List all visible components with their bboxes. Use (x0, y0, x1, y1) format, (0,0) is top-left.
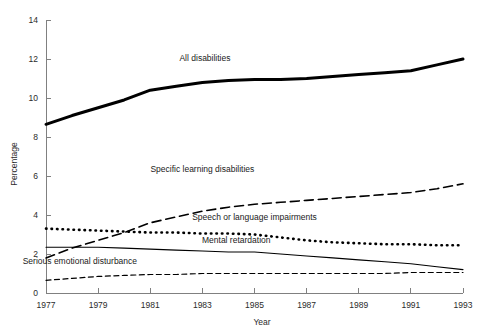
x-tick-label-1981: 1981 (141, 300, 160, 310)
x-tick-label-1993: 1993 (454, 300, 473, 310)
series-line-4 (46, 273, 463, 281)
series-label-1: Specific learning disabilities (150, 164, 254, 174)
series-line-0 (46, 59, 463, 124)
y-tick-label-6: 6 (33, 171, 38, 181)
line-chart-svg: 02468101214 1977197919811983198519871989… (0, 0, 479, 332)
x-tick-label-1991: 1991 (401, 300, 420, 310)
y-axis-title: Percentage (9, 142, 19, 186)
y-tick-label-8: 8 (33, 132, 38, 142)
series-annotations: All disabilitiesSpecific learning disabi… (23, 53, 317, 266)
series-label-0: All disabilities (179, 53, 230, 63)
series-label-3: Mental retardation (202, 235, 271, 245)
series-label-2: Speech or language impairments (192, 212, 317, 222)
y-tick-label-4: 4 (33, 210, 38, 220)
x-axis: 197719791981198319851987198919911993 (37, 288, 473, 310)
y-tick-label-0: 0 (33, 288, 38, 298)
x-tick-label-1977: 1977 (37, 300, 56, 310)
x-axis-ticks: 197719791981198319851987198919911993 (37, 288, 473, 310)
series-label-4: Serious emotional disturbance (23, 256, 138, 266)
chart-container: 02468101214 1977197919811983198519871989… (0, 0, 479, 332)
x-tick-label-1983: 1983 (193, 300, 212, 310)
series-lines (46, 59, 463, 280)
x-tick-label-1979: 1979 (89, 300, 108, 310)
x-tick-label-1989: 1989 (349, 300, 368, 310)
y-tick-label-14: 14 (29, 15, 39, 25)
x-tick-label-1985: 1985 (245, 300, 264, 310)
x-axis-title: Year (253, 317, 270, 327)
x-tick-label-1987: 1987 (297, 300, 316, 310)
y-tick-label-12: 12 (29, 54, 39, 64)
y-tick-label-10: 10 (29, 93, 39, 103)
